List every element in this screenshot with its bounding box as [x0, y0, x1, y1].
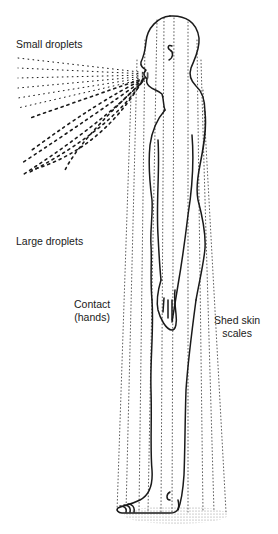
hand — [157, 280, 176, 330]
dispersal-diagram — [0, 0, 278, 534]
shed-label-line2: scales — [214, 327, 260, 340]
human-body-outline — [117, 16, 205, 513]
dispersal-dotted-lines — [117, 18, 226, 512]
large-droplets-spray — [22, 78, 145, 174]
small-droplets-spray — [18, 58, 148, 108]
ear — [168, 45, 172, 60]
contact-label-line1: Contact — [74, 298, 110, 311]
contact-label-line2: (hands) — [74, 311, 110, 324]
shed-skin-floor-patch — [124, 506, 228, 524]
shed-label-line1: Shed skin — [214, 314, 260, 327]
contact-hands-label: Contact (hands) — [74, 298, 110, 323]
large-droplets-label: Large droplets — [16, 235, 83, 248]
shed-skin-scales-label: Shed skin scales — [214, 314, 260, 339]
small-droplets-label: Small droplets — [16, 38, 83, 51]
